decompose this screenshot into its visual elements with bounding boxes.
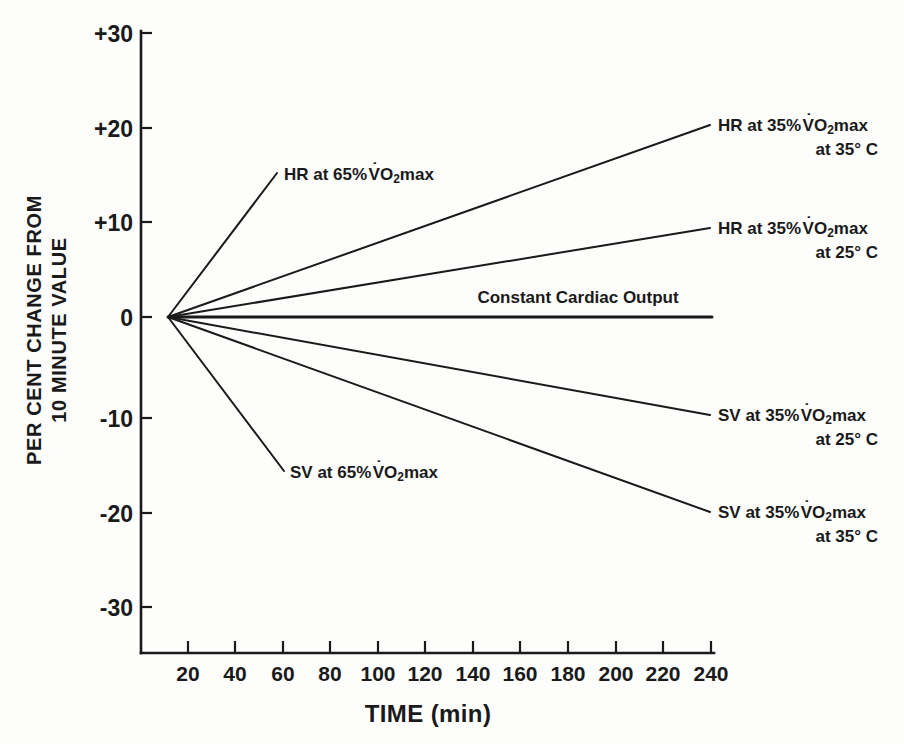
y-tick-label-10n: -10 [100,406,133,432]
x-tick-label-60: 60 [271,662,294,685]
series-line-sv-35pct-35c [168,317,710,512]
svg-text:SV at 35% ˙VO2max: SV at 35% ˙VO2max [718,400,867,427]
figure-chart-percent-change-vs-time: +30 +20 +10 0 -10 -20 -30 20 40 60 [0,0,904,744]
label-text-v: V [369,165,381,184]
label-text-o: O [814,219,827,238]
x-tick-label-100: 100 [360,662,395,685]
label-text-o: O [812,406,825,425]
label-text-o: O [814,116,827,135]
label-text-prefix: SV at 65% [290,463,376,482]
y-axis-title-line2: 10 MINUTE VALUE [48,237,70,422]
label-text-o: O [812,503,825,522]
x-tick-label-160: 160 [502,662,537,685]
label-text-o: O [384,463,397,482]
label-text-line2: at 25° C [815,243,878,262]
svg-text:SV at 35% ˙VO2max: SV at 35% ˙VO2max [718,497,867,524]
series-line-hr-65pct [168,173,277,317]
label-text-suffix: max [834,219,869,238]
annotation-constant-cardiac-output: Constant Cardiac Output [477,288,679,307]
axes-group [141,31,714,653]
label-text-suffix: max [832,503,867,522]
series-label-sv-65pct: SV at 65% ˙VO2max [290,457,439,484]
label-text-suffix: max [832,406,867,425]
label-text-v: V [801,503,813,522]
x-axis-title: TIME (min) [365,700,492,727]
x-tick-label-200: 200 [598,662,633,685]
svg-text:HR at 35% ˙VO2max: HR at 35% ˙VO2max [718,213,868,240]
chart-canvas: +30 +20 +10 0 -10 -20 -30 20 40 60 [0,0,904,744]
svg-text:SV at 65% ˙VO2max: SV at 65% ˙VO2max [290,457,439,484]
y-tick-label-30n: -30 [100,595,133,621]
series-line-sv-35pct-25c [168,317,710,415]
y-tick-label-30p: +30 [94,21,133,47]
y-axis-tick-labels: +30 +20 +10 0 -10 -20 -30 [94,21,133,621]
svg-text:HR at 35% ˙VO2max: HR at 35% ˙VO2max [718,110,868,137]
label-text-suffix: max [834,116,869,135]
y-tick-label-20p: +20 [94,116,133,142]
series-label-sv-35pct-35c: SV at 35% ˙VO2max at 35° C [718,497,878,546]
label-text-suffix: max [400,165,435,184]
y-tick-label-20n: -20 [100,501,133,527]
x-tick-label-240: 240 [693,662,728,685]
y-tick-label-0: 0 [120,305,133,331]
label-text-prefix: SV at 35% [718,406,804,425]
label-text-line2: at 25° C [815,430,878,449]
label-text-prefix: HR at 65% [284,165,372,184]
svg-text:HR at 65% ˙VO2max: HR at 65% ˙VO2max [284,159,434,186]
series-label-hr-35pct-25c: HR at 35% ˙VO2max at 25° C [718,213,878,262]
label-text-line2: at 35° C [815,527,878,546]
x-tick-label-120: 120 [407,662,442,685]
series-line-sv-65pct [168,317,284,471]
y-tick-label-10p: +10 [94,210,133,236]
label-text-prefix: HR at 35% [718,219,806,238]
x-tick-label-40: 40 [223,662,246,685]
y-axis-title: PER CENT CHANGE FROM 10 MINUTE VALUE [23,195,70,465]
x-axis-tick-labels: 20 40 60 80 100 120 140 160 180 200 220 … [176,662,728,685]
y-axis-title-line1: PER CENT CHANGE FROM [23,195,45,465]
x-tick-label-80: 80 [318,662,341,685]
data-series-lines [168,125,712,512]
label-text-prefix: SV at 35% [718,503,804,522]
label-text-suffix: max [404,463,439,482]
y-axis-ticks [141,33,152,607]
label-text-v: V [803,116,815,135]
label-text-v: V [801,406,813,425]
label-text-v: V [803,219,815,238]
label-text-prefix: HR at 35% [718,116,806,135]
x-axis-ticks [188,641,711,653]
label-text-line2: at 35° C [815,140,878,159]
label-text-v: V [373,463,385,482]
label-text-o: O [380,165,393,184]
x-tick-label-20: 20 [176,662,199,685]
series-label-hr-35pct-35c: HR at 35% ˙VO2max at 35° C [718,110,878,159]
series-label-hr-65pct: HR at 65% ˙VO2max [284,159,434,186]
x-tick-label-220: 220 [645,662,680,685]
x-tick-label-180: 180 [550,662,585,685]
x-tick-label-140: 140 [455,662,490,685]
series-label-sv-35pct-25c: SV at 35% ˙VO2max at 25° C [718,400,878,449]
